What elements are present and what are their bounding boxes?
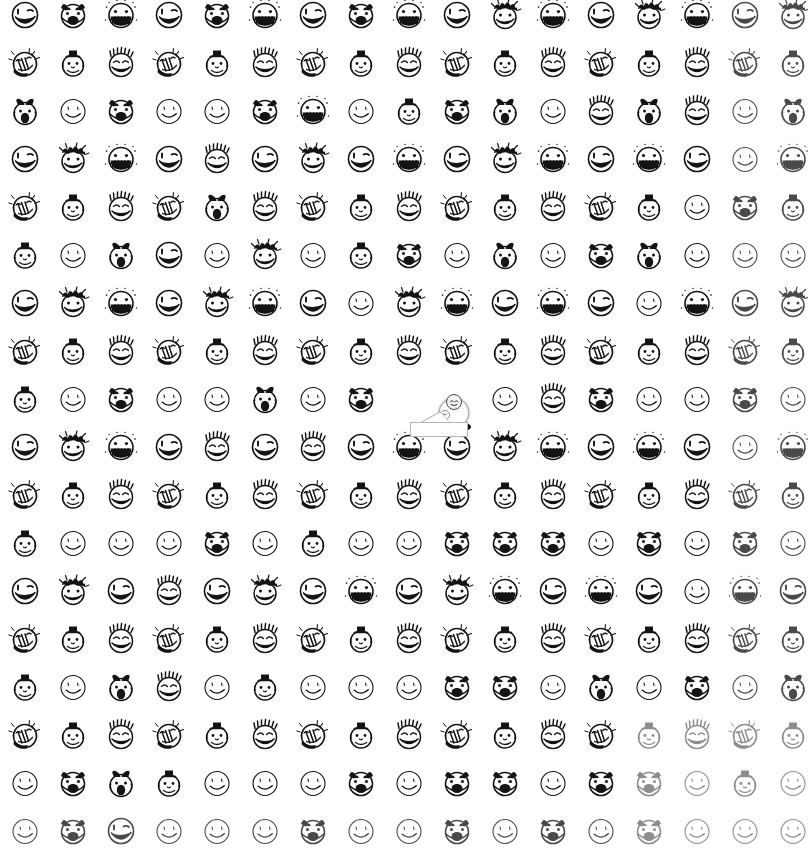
doodle-face-spiky[interactable] (97, 711, 145, 759)
doodle-face-slap[interactable] (577, 471, 625, 519)
doodle-face-simple[interactable] (49, 87, 97, 135)
doodle-face-simple[interactable] (673, 807, 721, 855)
doodle-face-spiky[interactable] (529, 615, 577, 663)
doodle-face-simple[interactable] (49, 375, 97, 423)
doodle-face-devil[interactable] (433, 519, 481, 567)
doodle-face-spiky[interactable] (673, 471, 721, 519)
doodle-face-slap[interactable] (577, 711, 625, 759)
doodle-face-devil[interactable] (433, 87, 481, 135)
doodle-face-simple[interactable] (337, 279, 385, 327)
doodle-face-simple[interactable] (673, 375, 721, 423)
doodle-face-slap[interactable] (145, 471, 193, 519)
doodle-face-grin-wink[interactable] (1, 279, 49, 327)
doodle-face-tophat[interactable] (145, 759, 193, 807)
doodle-face-teeth[interactable] (97, 0, 145, 39)
doodle-face-devil[interactable] (481, 519, 529, 567)
doodle-face-simple[interactable] (577, 807, 625, 855)
doodle-face-simple[interactable] (529, 87, 577, 135)
doodle-face-tophat[interactable] (625, 471, 673, 519)
doodle-face-simple[interactable] (769, 807, 808, 855)
doodle-face-messy[interactable] (481, 135, 529, 183)
doodle-face-grin-wink[interactable] (241, 135, 289, 183)
doodle-face-tophat[interactable] (193, 327, 241, 375)
doodle-face-teeth[interactable] (529, 423, 577, 471)
doodle-face-grin-wink[interactable] (1, 423, 49, 471)
doodle-face-simple[interactable] (145, 375, 193, 423)
doodle-face-teeth[interactable] (337, 567, 385, 615)
doodle-face-grin-wink[interactable] (673, 135, 721, 183)
doodle-face-simple[interactable] (529, 759, 577, 807)
doodle-face-devil[interactable] (97, 87, 145, 135)
doodle-face-bow[interactable] (97, 759, 145, 807)
doodle-face-teeth[interactable] (625, 423, 673, 471)
doodle-face-simple[interactable] (193, 231, 241, 279)
doodle-face-simple[interactable] (481, 807, 529, 855)
doodle-face-simple[interactable] (625, 663, 673, 711)
doodle-face-bow[interactable] (97, 231, 145, 279)
doodle-face-tophat[interactable] (337, 711, 385, 759)
doodle-face-slap[interactable] (145, 327, 193, 375)
doodle-face-slap[interactable] (721, 711, 769, 759)
doodle-face-spiky[interactable] (529, 39, 577, 87)
doodle-face-grin-wink[interactable] (385, 567, 433, 615)
doodle-face-teeth[interactable] (721, 567, 769, 615)
doodle-face-spiky[interactable] (241, 327, 289, 375)
doodle-face-grin-wink[interactable] (145, 0, 193, 39)
doodle-face-slap[interactable] (433, 327, 481, 375)
doodle-face-messy[interactable] (49, 135, 97, 183)
doodle-face-grin-wink[interactable] (721, 279, 769, 327)
doodle-face-teeth[interactable] (577, 567, 625, 615)
doodle-face-tophat[interactable] (481, 711, 529, 759)
doodle-face-spiky[interactable] (241, 615, 289, 663)
doodle-face-slap[interactable] (721, 615, 769, 663)
doodle-face-simple[interactable] (385, 759, 433, 807)
doodle-face-simple[interactable] (673, 519, 721, 567)
doodle-face-tophat[interactable] (337, 327, 385, 375)
doodle-face-grin-wink[interactable] (1, 0, 49, 39)
doodle-face-messy[interactable] (193, 279, 241, 327)
doodle-face-slap[interactable] (721, 471, 769, 519)
doodle-face-teeth[interactable] (673, 0, 721, 39)
doodle-face-simple[interactable] (385, 663, 433, 711)
doodle-face-devil[interactable] (577, 759, 625, 807)
doodle-face-spiky[interactable] (241, 711, 289, 759)
doodle-face-teeth[interactable] (529, 0, 577, 39)
doodle-face-slap[interactable] (577, 39, 625, 87)
doodle-face-tophat[interactable] (337, 471, 385, 519)
doodle-face-tophat[interactable] (769, 39, 808, 87)
doodle-face-slap[interactable] (1, 471, 49, 519)
doodle-face-bow[interactable] (481, 87, 529, 135)
doodle-face-tophat[interactable] (481, 327, 529, 375)
doodle-face-spiky[interactable] (385, 183, 433, 231)
doodle-face-tophat[interactable] (289, 519, 337, 567)
doodle-face-simple[interactable] (721, 231, 769, 279)
doodle-face-teeth[interactable] (97, 135, 145, 183)
doodle-face-slap[interactable] (145, 711, 193, 759)
doodle-face-bow[interactable] (625, 87, 673, 135)
doodle-face-simple[interactable] (721, 663, 769, 711)
doodle-face-spiky[interactable] (385, 711, 433, 759)
doodle-face-tophat[interactable] (481, 471, 529, 519)
doodle-face-slap[interactable] (433, 711, 481, 759)
doodle-face-devil[interactable] (721, 519, 769, 567)
doodle-face-spiky[interactable] (97, 615, 145, 663)
doodle-face-spiky[interactable] (241, 183, 289, 231)
doodle-face-slap[interactable] (1, 183, 49, 231)
doodle-face-grin-wink[interactable] (97, 567, 145, 615)
doodle-face-grin-wink[interactable] (337, 423, 385, 471)
doodle-face-teeth[interactable] (673, 279, 721, 327)
doodle-face-simple[interactable] (241, 759, 289, 807)
doodle-face-slap[interactable] (721, 39, 769, 87)
doodle-face-simple[interactable] (769, 519, 808, 567)
doodle-face-tophat[interactable] (769, 711, 808, 759)
doodle-face-grin-wink[interactable] (145, 231, 193, 279)
doodle-face-tophat[interactable] (49, 327, 97, 375)
doodle-face-bow[interactable] (769, 663, 808, 711)
doodle-face-teeth[interactable] (769, 423, 808, 471)
doodle-face-devil[interactable] (433, 807, 481, 855)
doodle-face-tophat[interactable] (625, 39, 673, 87)
magnified-hovered-face[interactable] (410, 392, 500, 448)
doodle-face-slap[interactable] (433, 183, 481, 231)
doodle-face-spiky[interactable] (385, 327, 433, 375)
doodle-face-grin-wink[interactable] (577, 0, 625, 39)
